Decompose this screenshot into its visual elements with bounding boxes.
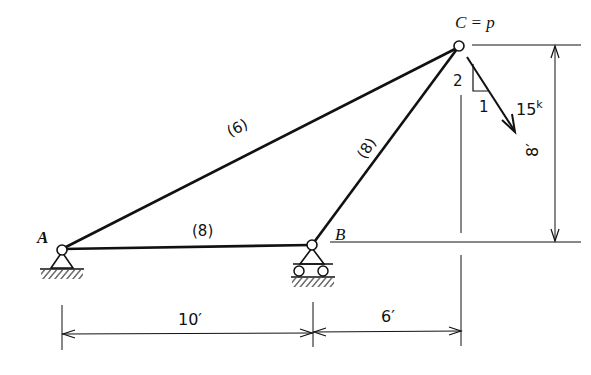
dimension-height [551, 46, 559, 241]
member-AB [62, 245, 311, 249]
joint-C [454, 41, 464, 51]
member-label-AB: (8) [192, 222, 213, 240]
joint-label-B: B [335, 225, 346, 244]
joint-A [57, 245, 67, 255]
slope-run-label: 1 [479, 98, 489, 116]
load-magnitude: 15k [516, 98, 543, 119]
dimension-BC [313, 327, 461, 336]
dimension-height-label: 8′ [523, 143, 542, 157]
member-BC [312, 49, 457, 245]
truss-svg: (6) (8) (8) A B C = p 2 1 15k [0, 0, 591, 375]
member-AC [62, 48, 457, 249]
joint-label-C: C = p [455, 13, 495, 32]
roller-support-B [291, 248, 335, 287]
slope-rise-label: 2 [453, 72, 463, 90]
joint-label-A: A [36, 228, 48, 247]
joint-B [307, 240, 317, 250]
dimension-BC-label: 6′ [381, 307, 395, 326]
dimension-AB-label: 10′ [178, 310, 202, 329]
pin-support-A [40, 252, 84, 279]
truss-diagram: (6) (8) (8) A B C = p 2 1 15k [0, 0, 591, 375]
load-arrow [467, 57, 515, 132]
member-label-AC: (6) [224, 115, 251, 140]
